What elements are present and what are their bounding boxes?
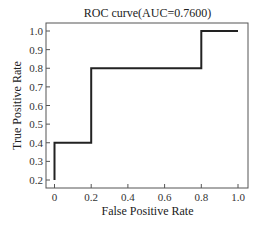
y-tick: 0.2	[29, 174, 50, 186]
axes-frame	[46, 23, 248, 188]
y-tick: 0.5	[29, 118, 50, 130]
y-tick-label: 0.6	[29, 100, 43, 112]
x-tick: 0.2	[84, 184, 98, 203]
y-tick: 0.4	[29, 137, 50, 149]
x-axis-ticks: 00.20.40.60.81.0	[52, 184, 246, 203]
y-tick: 0.9	[29, 44, 50, 56]
y-tick: 0.8	[29, 62, 50, 74]
plot-area: 00.20.40.60.81.0 0.20.30.40.50.60.70.80.…	[0, 0, 258, 227]
x-tick-label: 0.4	[121, 191, 135, 203]
y-tick: 0.3	[29, 155, 50, 167]
x-tick: 0.4	[121, 184, 135, 203]
x-tick: 0.8	[194, 184, 208, 203]
x-tick: 1.0	[231, 184, 245, 203]
y-tick: 0.6	[29, 100, 50, 112]
x-tick-label: 0.6	[158, 191, 172, 203]
y-tick: 0.7	[29, 81, 50, 93]
x-tick-label: 0.2	[84, 191, 98, 203]
y-tick-label: 0.9	[29, 44, 43, 56]
y-tick-label: 0.4	[29, 137, 43, 149]
y-tick-label: 1.0	[29, 25, 43, 37]
y-tick-label: 0.8	[29, 62, 43, 74]
roc-curve-line	[55, 31, 239, 180]
y-tick-label: 0.5	[29, 118, 43, 130]
x-tick-label: 1.0	[231, 191, 245, 203]
x-tick: 0.6	[158, 184, 172, 203]
x-tick-label: 0	[52, 191, 58, 203]
y-tick-label: 0.3	[29, 155, 43, 167]
y-tick-label: 0.7	[29, 81, 43, 93]
y-tick: 1.0	[29, 25, 50, 37]
y-axis-ticks: 0.20.30.40.50.60.70.80.91.0	[29, 25, 50, 186]
y-tick-label: 0.2	[29, 174, 43, 186]
x-tick-label: 0.8	[194, 191, 208, 203]
x-tick: 0	[52, 184, 58, 203]
